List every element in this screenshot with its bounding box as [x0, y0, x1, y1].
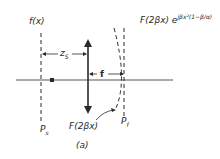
- point-source-dot: [50, 78, 54, 82]
- lens-arrow-down: [84, 106, 92, 114]
- input-function-label: f(x): [29, 17, 45, 26]
- curved-wavefront: [114, 28, 122, 108]
- figure-caption: (a): [76, 141, 89, 150]
- lens-arrow-up: [84, 39, 92, 47]
- optical-diagram: f(x) zS f F(2βx) ejβx²(1−β/α) Ps Pf F(2β…: [0, 0, 220, 159]
- distance-zs-label: zS: [60, 49, 69, 60]
- source-plane-label: Ps: [40, 125, 49, 136]
- output-bottom-label: F(2βx): [69, 122, 98, 131]
- output-top-label: F(2βx) ejβx²(1−β/α): [140, 16, 212, 25]
- label-leader: [96, 110, 114, 120]
- fourier-plane-label: Pf: [121, 117, 129, 128]
- focal-length-label: f: [100, 70, 104, 79]
